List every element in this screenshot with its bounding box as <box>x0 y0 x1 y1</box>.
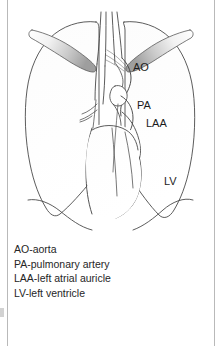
legend-item: PA-pulmonary artery <box>14 257 204 272</box>
legend-item: AO-aorta <box>14 242 204 257</box>
label-lv: LV <box>164 176 177 187</box>
abbreviation-legend: AO-aorta PA-pulmonary artery LAA-left at… <box>14 242 204 300</box>
page-edge-tick-mark <box>0 308 4 317</box>
label-pa: PA <box>137 100 151 111</box>
legend-item: LV-left ventricle <box>14 286 204 301</box>
label-laa: LAA <box>146 118 167 129</box>
left-clavicle-striations <box>106 50 126 71</box>
legend-item: LAA-left atrial auricle <box>14 271 204 286</box>
figure-panel: AO PA LAA LV AO-aorta PA-pulmonary arter… <box>0 0 222 346</box>
label-ao: AO <box>133 62 149 73</box>
chest-anatomy-illustration <box>0 0 222 240</box>
cardiac-silhouette <box>86 124 141 219</box>
aortic-knob <box>110 85 127 106</box>
